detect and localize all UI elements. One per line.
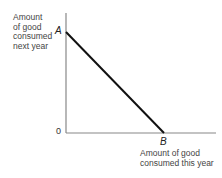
x-axis-label: Amount of good consumed this year xyxy=(140,149,222,168)
point-b-label: B xyxy=(160,136,167,147)
y-axis-label-line: next year xyxy=(13,42,63,52)
x-axis-label-line: consumed this year xyxy=(140,159,222,169)
point-a-label: A xyxy=(55,25,62,36)
budget-line xyxy=(66,32,164,133)
origin-label: 0 xyxy=(56,126,61,136)
